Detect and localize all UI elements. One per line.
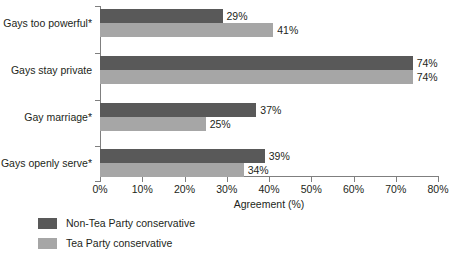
legend-item[interactable]: Tea Party conservative — [38, 235, 195, 251]
legend-label: Non-Tea Party conservative — [66, 217, 195, 229]
x-axis-tick-label: 50% — [291, 183, 331, 195]
x-axis-tick — [185, 177, 186, 182]
bar — [100, 149, 265, 163]
bar — [100, 9, 223, 23]
x-axis-tick — [438, 177, 439, 182]
x-axis-tick-label: 80% — [418, 183, 455, 195]
x-axis-tick-label: 70% — [376, 183, 416, 195]
category-label: Gays stay private — [11, 64, 92, 76]
bar — [100, 23, 273, 37]
bar — [100, 117, 206, 131]
bar — [100, 103, 256, 117]
y-axis-tick — [95, 146, 100, 147]
x-axis-tick-label: 40% — [249, 183, 289, 195]
x-axis-tick — [142, 177, 143, 182]
x-axis-tick-label: 10% — [122, 183, 162, 195]
bar-chart: Gays too powerful*Gays stay privateGay m… — [0, 0, 455, 255]
category-label: Gays openly serve* — [1, 157, 92, 169]
legend-swatch — [38, 238, 57, 249]
bar-value-label: 74% — [417, 70, 438, 84]
bar-value-label: 29% — [227, 9, 248, 23]
bar-value-label: 39% — [269, 149, 290, 163]
x-axis-tick — [100, 177, 101, 182]
y-axis-tick — [95, 53, 100, 54]
x-axis-tick — [269, 177, 270, 182]
bar — [100, 70, 413, 84]
x-axis-tick — [396, 177, 397, 182]
bar-value-label: 37% — [260, 103, 281, 117]
x-axis-tick — [311, 177, 312, 182]
y-axis-tick — [95, 100, 100, 101]
legend-label: Tea Party conservative — [66, 237, 172, 249]
bar-value-label: 41% — [277, 23, 298, 37]
bar — [100, 56, 413, 70]
y-axis-tick — [95, 6, 100, 7]
bar-value-label: 74% — [417, 56, 438, 70]
x-axis-tick-label: 20% — [165, 183, 205, 195]
category-label: Gay marriage* — [24, 111, 92, 123]
bar-value-label: 25% — [210, 117, 231, 131]
x-axis-tick-label: 0% — [80, 183, 120, 195]
legend-item[interactable]: Non-Tea Party conservative — [38, 215, 195, 231]
x-axis-tick — [354, 177, 355, 182]
bar-value-label: 34% — [248, 163, 269, 177]
legend-swatch — [38, 218, 57, 229]
category-label: Gays too powerful* — [3, 17, 92, 29]
x-axis-tick-label: 60% — [334, 183, 374, 195]
chart-legend: Non-Tea Party conservativeTea Party cons… — [38, 215, 195, 255]
x-axis-title: Agreement (%) — [100, 198, 438, 210]
x-axis-tick — [227, 177, 228, 182]
bar — [100, 163, 244, 177]
x-axis-tick-label: 30% — [207, 183, 247, 195]
